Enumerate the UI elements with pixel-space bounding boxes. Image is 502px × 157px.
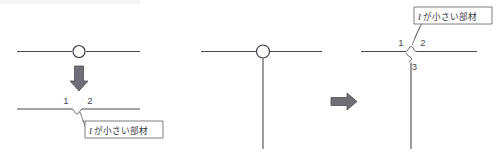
tee-segment-number-3: 3: [412, 61, 417, 72]
right-arrow: [331, 93, 357, 110]
diagram-canvas: 1 2 Iが小さい部材: [0, 0, 502, 157]
tee-segment-number-1: 1: [398, 37, 403, 48]
callout-rest-text: が小さい部材: [94, 125, 148, 136]
small-i-member-callout: Iが小さい部材: [80, 112, 163, 138]
node-circle-before: [73, 46, 85, 58]
scan-artifact: [0, 0, 140, 4]
tee-joint-with-node: [201, 45, 322, 149]
split-tee-joint: 1 2 3: [361, 37, 477, 150]
split-beam-with-gap: 1 2: [17, 95, 140, 115]
callout-label: Iが小さい部材: [88, 125, 148, 136]
callout-label-right: Iが小さい部材: [417, 11, 477, 22]
segment-number-1: 1: [63, 95, 68, 106]
break-symbol-tee-horizontal: [406, 47, 416, 52]
break-symbol-tee-vertical: [407, 54, 412, 62]
segment-number-2: 2: [87, 95, 92, 106]
right-arrow-icon: [331, 93, 357, 110]
down-arrow-icon: [70, 66, 88, 91]
down-arrow: [70, 66, 88, 91]
tee-segment-number-2: 2: [420, 37, 425, 48]
straight-beam-with-node: [17, 46, 140, 58]
node-circle-tee-before: [257, 45, 270, 58]
callout-rest-text-right: が小さい部材: [423, 11, 477, 22]
beam-split-panel: 1 2 Iが小さい部材: [17, 46, 163, 139]
tee-joint-split-panel: 1 2 3 Iが小さい部材: [201, 7, 492, 149]
